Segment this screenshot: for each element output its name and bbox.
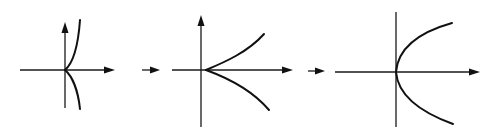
x-axis-arrowhead-icon xyxy=(282,67,293,74)
curve-transition-diagram xyxy=(0,0,502,134)
upper-branch-curve xyxy=(206,34,264,70)
transition-arrow-1 xyxy=(142,67,160,74)
lower-branch-curve xyxy=(206,70,269,110)
panel-3-parabola xyxy=(335,12,480,127)
right-arrow-icon xyxy=(315,68,325,75)
transition-arrow-2 xyxy=(308,68,325,75)
right-arrow-icon xyxy=(150,67,160,74)
x-axis-arrowhead-icon xyxy=(104,67,115,74)
lower-branch-curve xyxy=(65,70,80,109)
x-axis-arrowhead-icon xyxy=(469,69,480,76)
panel-1-cusp xyxy=(20,20,115,109)
y-axis-arrowhead-icon xyxy=(62,22,69,33)
upper-branch-curve xyxy=(65,20,80,70)
panel-2-cusp xyxy=(172,15,293,127)
y-axis-arrowhead-icon xyxy=(198,15,205,26)
parabola-curve xyxy=(396,23,453,124)
